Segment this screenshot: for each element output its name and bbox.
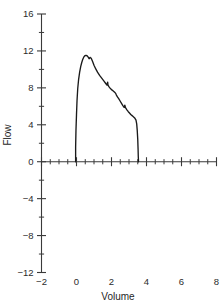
x-axis-tick-labels: −202468 (36, 276, 219, 287)
y-tick-label: −12 (17, 267, 33, 278)
x-tick-label: 6 (179, 276, 184, 287)
flow-volume-curve (76, 55, 139, 161)
y-tick-label: 4 (28, 119, 33, 130)
y-tick-label: 12 (23, 45, 34, 56)
chart-canvas: −12−8−40481216 −202468 Volume Flow (0, 0, 223, 306)
x-tick-label: 8 (214, 276, 219, 287)
y-tick-label: 8 (28, 82, 33, 93)
x-tick-label: 4 (144, 276, 149, 287)
y-tick-label: 16 (23, 8, 34, 19)
x-tick-label: 0 (74, 276, 79, 287)
x-axis-title: Volume (101, 291, 135, 302)
y-tick-label: −4 (23, 193, 34, 204)
x-tick-label: −2 (36, 276, 47, 287)
flow-volume-chart: −12−8−40481216 −202468 Volume Flow (0, 0, 223, 306)
y-axis-title: Flow (2, 124, 13, 146)
y-tick-label: −8 (23, 230, 34, 241)
x-tick-label: 2 (109, 276, 114, 287)
y-axis-tick-labels: −12−8−40481216 (17, 8, 33, 278)
y-tick-label: 0 (28, 156, 33, 167)
